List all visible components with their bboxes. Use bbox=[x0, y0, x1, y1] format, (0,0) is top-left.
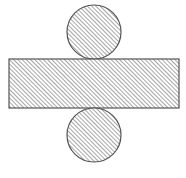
lateral-surface-rectangle bbox=[9, 59, 179, 108]
bottom-circle-base bbox=[67, 108, 121, 162]
cylinder-net-diagram bbox=[0, 0, 186, 178]
top-circle-base bbox=[67, 5, 121, 59]
